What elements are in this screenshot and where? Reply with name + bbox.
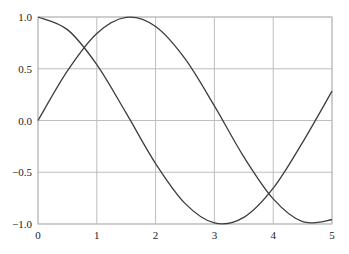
grid-lines xyxy=(38,17,332,224)
x-tick-label: 5 xyxy=(329,229,335,241)
x-tick-label: 2 xyxy=(153,229,159,241)
y-axis-ticks: 1.00.50.0−0.5−1.0 xyxy=(12,11,32,230)
y-tick-label: 0.5 xyxy=(18,63,32,75)
x-tick-label: 1 xyxy=(94,229,100,241)
line-chart: 012345 1.00.50.0−0.5−1.0 xyxy=(0,0,349,254)
x-tick-label: 0 xyxy=(35,229,41,241)
y-tick-label: −0.5 xyxy=(12,166,32,178)
x-axis-ticks: 012345 xyxy=(35,229,335,241)
y-tick-label: −1.0 xyxy=(12,218,32,230)
y-tick-label: 0.0 xyxy=(18,115,32,127)
y-tick-label: 1.0 xyxy=(18,11,32,23)
x-tick-label: 4 xyxy=(270,229,276,241)
x-tick-label: 3 xyxy=(212,229,218,241)
